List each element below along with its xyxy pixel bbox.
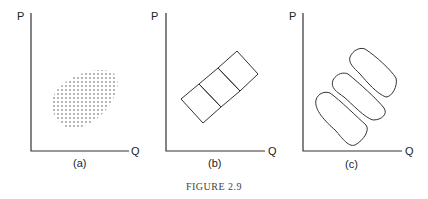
region-crosses xyxy=(218,51,258,91)
tilted-rectangle xyxy=(181,51,258,123)
y-axis-label-b: P xyxy=(151,10,158,22)
panel-label-a: (a) xyxy=(73,157,86,169)
blob-crosses xyxy=(350,48,397,97)
x-axis-label-a: Q xyxy=(131,145,140,157)
figure-caption: FIGURE 2.9 xyxy=(186,181,242,192)
x-axis-label-b: Q xyxy=(268,145,277,157)
panel-b: P Q (b) xyxy=(151,10,277,169)
region-circles xyxy=(199,68,240,107)
y-axis-label-a: P xyxy=(17,10,24,22)
blob-dashes xyxy=(316,92,368,145)
y-axis-label-c: P xyxy=(289,10,296,22)
figure-canvas: P Q (a) P Q (b) P Q (c) FIGURE 2.9 xyxy=(0,0,428,199)
region-dashes xyxy=(181,84,221,123)
panel-c: P Q (c) xyxy=(289,10,414,170)
panel-label-b: (b) xyxy=(208,157,221,169)
dotted-cluster xyxy=(52,70,118,129)
panel-a: P Q (a) xyxy=(17,10,140,169)
panel-label-c: (c) xyxy=(345,158,358,170)
blob-circles xyxy=(332,73,385,120)
x-axis-label-c: Q xyxy=(405,145,414,157)
axes-c xyxy=(303,13,402,151)
